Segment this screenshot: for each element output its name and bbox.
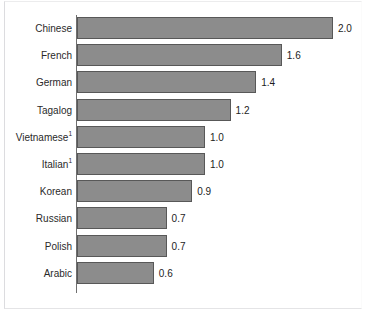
bar xyxy=(77,180,192,202)
bar-value-label: 1.0 xyxy=(210,159,224,170)
bar xyxy=(77,126,205,148)
bar-category-label: Italian1 xyxy=(42,159,72,170)
bar-category-label: Chinese xyxy=(35,23,72,34)
bar-value-label: 2.0 xyxy=(338,23,352,34)
bar-category-label: Arabic xyxy=(44,267,72,278)
bar xyxy=(77,99,231,121)
bar-value-label: 0.9 xyxy=(197,186,211,197)
bar-category-label: Russian xyxy=(36,213,72,224)
bar xyxy=(77,207,167,229)
bar-row: Polish0.7 xyxy=(0,235,370,257)
bar xyxy=(77,71,256,93)
bar-category-label: German xyxy=(36,77,72,88)
bar-chart-plot-area: Chinese2.0French1.6German1.4Tagalog1.2Vi… xyxy=(0,0,370,313)
bar xyxy=(77,153,205,175)
bar-value-label: 0.7 xyxy=(172,240,186,251)
bar-value-label: 1.4 xyxy=(261,77,275,88)
bar-row: Korean0.9 xyxy=(0,180,370,202)
bar-row: French1.6 xyxy=(0,44,370,66)
footnote-marker: 1 xyxy=(68,130,72,137)
bar xyxy=(77,235,167,257)
bar-row: Vietnamese11.0 xyxy=(0,126,370,148)
bar-row: Chinese2.0 xyxy=(0,17,370,39)
bar-value-label: 0.6 xyxy=(159,267,173,278)
bar-row: Russian0.7 xyxy=(0,207,370,229)
bar-value-label: 1.6 xyxy=(287,50,301,61)
bar-category-label: Vietnamese1 xyxy=(16,131,72,142)
bar-row: Italian11.0 xyxy=(0,153,370,175)
bar-category-label: Tagalog xyxy=(37,104,72,115)
bar-row: Arabic0.6 xyxy=(0,262,370,284)
bar-value-label: 1.0 xyxy=(210,131,224,142)
bar-value-label: 0.7 xyxy=(172,213,186,224)
bar-row: German1.4 xyxy=(0,71,370,93)
bar-category-label: Korean xyxy=(40,186,72,197)
bar xyxy=(77,17,333,39)
bar-category-label: French xyxy=(41,50,72,61)
bar-value-label: 1.2 xyxy=(236,104,250,115)
footnote-marker: 1 xyxy=(68,157,72,164)
bar xyxy=(77,262,154,284)
bar xyxy=(77,44,282,66)
bar-row: Tagalog1.2 xyxy=(0,99,370,121)
bar-category-label: Polish xyxy=(45,240,72,251)
